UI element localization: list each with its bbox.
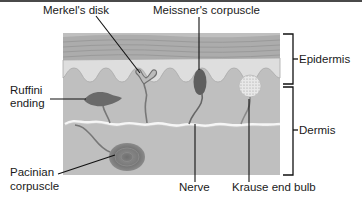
label-merkels-disk: Merkel's disk	[43, 4, 109, 17]
label-pacinian-line1: Pacinian	[10, 166, 54, 179]
meissners-corpuscle	[194, 69, 207, 95]
label-dermis: Dermis	[299, 124, 335, 137]
label-epidermis: Epidermis	[299, 53, 350, 66]
label-pacinian-line2: corpuscle	[10, 180, 59, 193]
krause-end-bulb	[239, 75, 261, 97]
skin-cross-section	[0, 0, 362, 197]
label-ruffini-line2: ending	[10, 97, 45, 110]
epidermis-bracket	[283, 34, 293, 84]
label-krause-end-bulb: Krause end bulb	[232, 181, 316, 194]
pacinian-corpuscle	[109, 143, 145, 171]
dermis-bracket	[283, 87, 293, 175]
label-nerve: Nerve	[179, 181, 210, 194]
label-meissners-corpuscle: Meissner's corpuscle	[153, 4, 260, 17]
label-ruffini-line1: Ruffini	[10, 84, 42, 97]
